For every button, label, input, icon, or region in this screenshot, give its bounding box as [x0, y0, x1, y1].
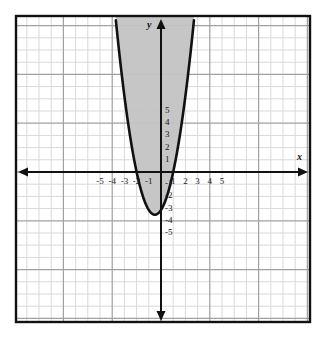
y-tick-label: -4: [165, 216, 173, 225]
y-tick-label: -3: [165, 204, 173, 213]
y-tick-label: 5: [165, 106, 170, 115]
x-axis-label: x: [297, 152, 302, 162]
figure-container: -5-4-3-2-11234554321-1-2-3-4-5 x y: [0, 0, 325, 337]
y-tick-label: 4: [165, 118, 170, 127]
y-tick-label: -5: [165, 228, 173, 237]
y-tick-label: -2: [165, 191, 173, 200]
y-axis-label: y: [147, 20, 151, 30]
y-tick-label: 1: [165, 155, 170, 164]
x-tick-label: 5: [213, 177, 231, 186]
y-tick-label: -1: [165, 179, 173, 188]
x-tick-label: -1: [140, 177, 158, 186]
y-tick-label: 2: [165, 143, 170, 152]
coordinate-plane-svg: [0, 0, 325, 337]
y-tick-label: 3: [165, 130, 170, 139]
